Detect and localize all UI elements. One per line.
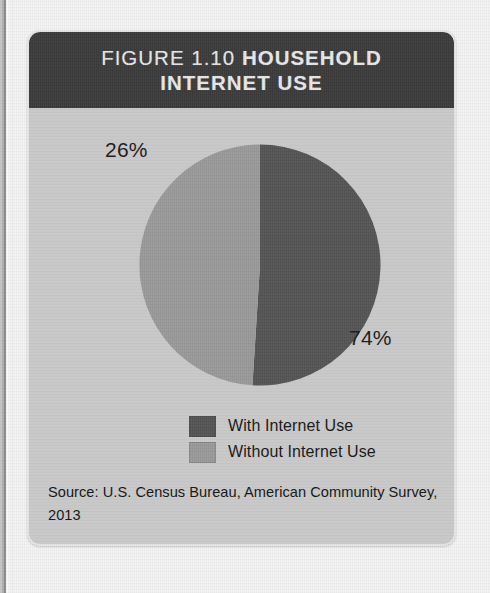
pie-chart-svg (137, 142, 383, 388)
chart-legend: With Internet Use Without Internet Use (29, 414, 454, 466)
legend-label-without-internet: Without Internet Use (228, 443, 376, 461)
figure-title: FIGURE 1.10 HOUSEHOLD INTERNET USE (43, 45, 440, 95)
pie-slice-without-internet (139, 144, 260, 385)
legend-item-without-internet: Without Internet Use (189, 440, 376, 464)
legend-swatch-with-internet (189, 416, 216, 437)
figure-number: FIGURE 1.10 (101, 46, 235, 69)
figure-header: FIGURE 1.10 HOUSEHOLD INTERNET USE (29, 32, 454, 108)
legend-swatch-without-internet (189, 442, 216, 463)
pie-chart: 26% 74% (29, 108, 454, 358)
figure-card: FIGURE 1.10 HOUSEHOLD INTERNET USE 26% 7… (27, 30, 456, 546)
legend-item-with-internet: With Internet Use (189, 414, 353, 438)
pie-label-without-internet: 26% (105, 138, 148, 162)
legend-label-with-internet: With Internet Use (228, 417, 353, 435)
source-note: Source: U.S. Census Bureau, American Com… (48, 481, 440, 527)
page-gutter-line (4, 0, 6, 593)
page-gutter-margin (6, 0, 13, 593)
scanned-page: FIGURE 1.10 HOUSEHOLD INTERNET USE 26% 7… (0, 0, 490, 593)
pie-label-with-internet: 74% (349, 326, 392, 350)
